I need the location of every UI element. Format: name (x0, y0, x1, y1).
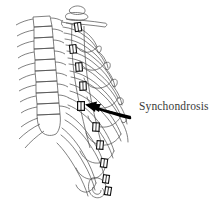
synchondrosis-marker (69, 44, 76, 53)
synchondrosis-marker-highlighted (78, 102, 85, 111)
synchondrosis-marker (100, 158, 107, 167)
manubrium-and-clavicle (62, 6, 107, 27)
synchondrosis-marker (93, 123, 100, 132)
synchondrosis-marker (74, 22, 82, 31)
synchondrosis-marker (102, 175, 109, 184)
leader-arrow (85, 102, 131, 120)
synchondrosis-marker (80, 82, 87, 91)
synchondrosis-marker (76, 63, 83, 72)
synchondrosis-label: Synchondrosis (139, 100, 209, 112)
anatomy-figure: Synchondrosis (0, 0, 223, 209)
synchondrosis-marker (104, 187, 111, 196)
synchondrosis-marker (96, 141, 103, 150)
